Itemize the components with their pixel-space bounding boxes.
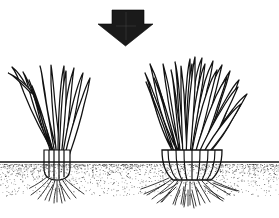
soil-stipple-dot [157,176,158,177]
soil-stipple-dot [149,164,150,165]
soil-stipple-dot [164,167,165,168]
soil-stipple-dot [172,164,173,165]
soil-stipple-dot [204,171,205,172]
soil-stipple-dot [132,166,133,167]
soil-stipple-dot [33,177,34,178]
soil-stipple-dot [19,174,20,175]
soil-stipple-dot [37,193,38,194]
soil-stipple-dot [140,174,141,175]
soil-stipple-dot [124,164,125,165]
soil-stipple-dot [222,173,223,174]
soil-stipple-dot [237,168,238,169]
soil-stipple-dot [193,184,194,185]
soil-stipple-dot [192,164,193,165]
soil-stipple-dot [85,168,86,169]
soil-stipple-dot [180,164,181,165]
soil-stipple-dot [163,177,164,178]
soil-stipple-dot [24,175,25,176]
soil-stipple-dot [208,187,209,188]
soil-stipple-dot [163,178,164,179]
soil-stipple-dot [170,195,171,196]
soil-stipple-dot [179,165,180,166]
soil-stipple-dot [51,166,52,167]
soil-stipple-dot [55,167,56,168]
soil-stipple-dot [47,164,48,165]
soil-stipple-dot [71,164,72,165]
soil-stipple-dot [50,171,51,172]
soil-stipple-dot [108,188,109,189]
soil-stipple-dot [176,164,177,165]
soil-stipple-dot [3,173,4,174]
soil-stipple-dot [273,171,274,172]
soil-stipple-dot [90,182,91,183]
soil-stipple-dot [93,165,94,166]
soil-stipple-dot [137,187,138,188]
soil-stipple-dot [8,172,9,173]
soil-stipple-dot [249,170,250,171]
soil-stipple-dot [0,164,1,165]
soil-stipple-dot [260,166,261,167]
soil-stipple-dot [264,184,265,185]
soil-stipple-dot [43,192,44,193]
soil-stipple-dot [202,170,203,171]
soil-stipple-dot [114,182,115,183]
soil-stipple-dot [141,193,142,194]
soil-stipple-dot [141,165,142,166]
soil-stipple-dot [277,175,278,176]
soil-stipple-dot [61,171,62,172]
soil-stipple-dot [82,177,83,178]
soil-stipple-dot [220,180,221,181]
soil-stipple-dot [207,179,208,180]
soil-stipple-dot [253,168,254,169]
soil-stipple-dot [261,164,262,165]
soil-stipple-dot [209,166,210,167]
soil-stipple-dot [138,193,139,194]
soil-stipple-dot [81,168,82,169]
soil-stipple-dot [223,166,224,167]
soil-stipple-dot [125,167,126,168]
soil-stipple-dot [38,171,39,172]
soil-stipple-dot [196,165,197,166]
soil-stipple-dot [222,165,223,166]
soil-stipple-dot [177,179,178,180]
soil-stipple-dot [208,174,209,175]
soil-stipple-dot [61,168,62,169]
soil-stipple-dot [74,165,75,166]
soil-stipple-dot [213,187,214,188]
soil-stipple-dot [208,179,209,180]
soil-stipple-dot [145,174,146,175]
soil-stipple-dot [198,171,199,172]
soil-stipple-dot [89,175,90,176]
soil-stipple-dot [27,164,28,165]
soil-stipple-dot [92,171,93,172]
soil-stipple-dot [72,179,73,180]
soil-stipple-dot [39,175,40,176]
soil-stipple-dot [137,170,138,171]
soil-stipple-dot [27,189,28,190]
soil-stipple-dot [41,164,42,165]
soil-stipple-dot [135,179,136,180]
soil-stipple-dot [121,165,122,166]
soil-stipple-dot [229,165,230,166]
soil-stipple-dot [30,171,31,172]
soil-stipple-dot [101,165,102,166]
soil-stipple-dot [24,185,25,186]
soil-stipple-dot [29,165,30,166]
soil-stipple-dot [197,166,198,167]
soil-stipple-dot [29,185,30,186]
soil-stipple-dot [31,170,32,171]
soil-stipple-dot [53,175,54,176]
soil-stipple-dot [36,181,37,182]
soil-stipple-dot [95,168,96,169]
soil-stipple-dot [214,182,215,183]
soil-stipple-dot [228,188,229,189]
soil-stipple-dot [92,177,93,178]
soil-stipple-dot [144,187,145,188]
soil-stipple-dot [200,186,201,187]
soil-stipple-dot [204,165,205,166]
soil-stipple-dot [175,179,176,180]
soil-stipple-dot [177,184,178,185]
soil-stipple-dot [205,189,206,190]
soil-stipple-dot [154,192,155,193]
soil-stipple-dot [97,183,98,184]
